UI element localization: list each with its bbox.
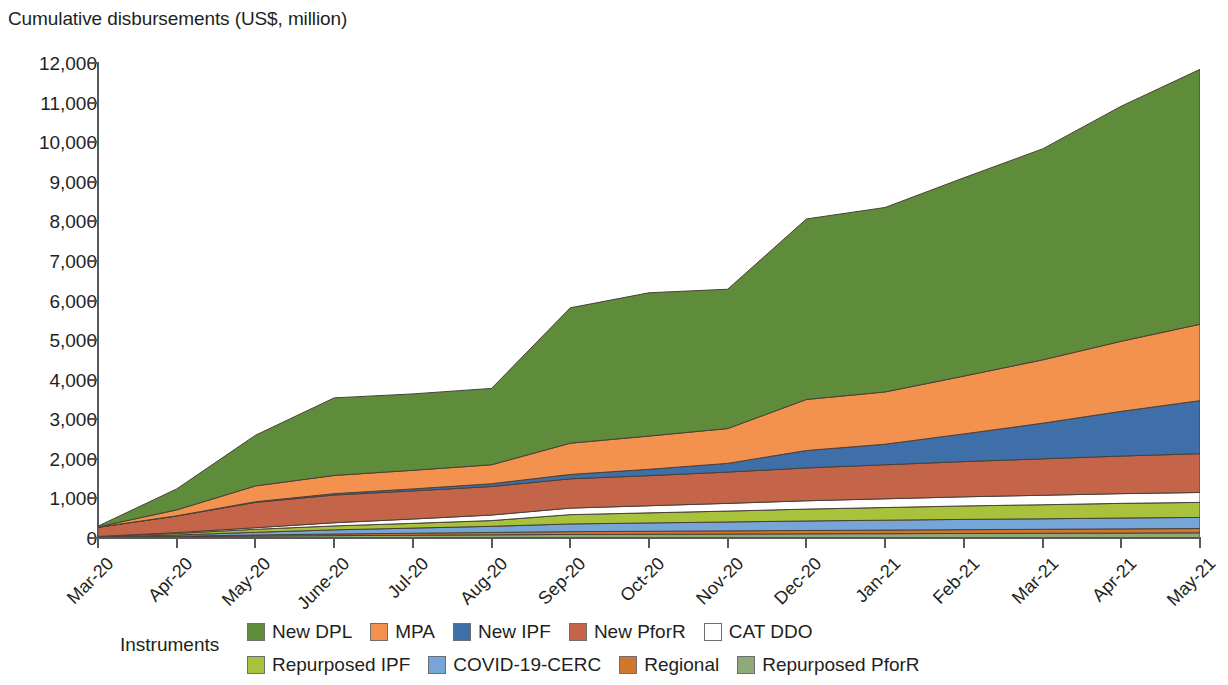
legend-item-label: New PforR [594,622,686,641]
legend-swatch-icon [619,656,637,674]
legend-swatch-icon [428,656,446,674]
x-tick-mark [727,539,729,548]
plot-area [98,63,1200,538]
legend-item[interactable]: COVID-19-CERC [428,655,601,674]
legend-item-label: Regional [644,655,719,674]
legend-items: New DPLMPANew IPFNew PforRCAT DDORepurpo… [247,615,938,681]
x-tick-mark [412,539,414,548]
x-tick-mark [1199,539,1201,548]
x-tick-mark [884,539,886,548]
x-tick-mark [333,539,335,548]
legend-item[interactable]: New PforR [569,622,686,641]
legend-item-label: CAT DDO [729,622,813,641]
legend-swatch-icon [370,623,388,641]
y-tick-label: 2,000 [11,450,97,469]
y-tick-label: 1,000 [11,489,97,508]
y-tick-label: 11,000 [11,94,97,113]
legend-item-label: COVID-19-CERC [453,655,601,674]
legend-item[interactable]: MPA [370,622,435,641]
y-tick-label: 12,000 [11,54,97,73]
x-tick-mark [963,539,965,548]
x-tick-mark [491,539,493,548]
y-tick-label: 7,000 [11,252,97,271]
x-tick-mark [176,539,178,548]
legend-row: Repurposed IPFCOVID-19-CERCRegionalRepur… [247,648,938,681]
legend-item-label: New DPL [272,622,352,641]
y-tick-label: 6,000 [11,292,97,311]
legend-item-label: Repurposed PforR [762,655,919,674]
x-tick-mark [1042,539,1044,548]
legend-swatch-icon [737,656,755,674]
x-tick-mark [805,539,807,548]
x-tick-mark [648,539,650,548]
legend-item-label: Repurposed IPF [272,655,410,674]
legend: Instruments New DPLMPANew IPFNew PforRCA… [120,615,1220,681]
y-tick-label: 3,000 [11,410,97,429]
y-tick-label: 8,000 [11,212,97,231]
legend-item[interactable]: New DPL [247,622,352,641]
x-tick-mark [1120,539,1122,548]
legend-item[interactable]: New IPF [453,622,551,641]
legend-item[interactable]: Repurposed IPF [247,655,410,674]
stacked-area-svg [98,63,1200,538]
legend-title: Instruments [120,635,219,654]
legend-item-label: MPA [395,622,435,641]
legend-swatch-icon [247,623,265,641]
y-tick-label: 10,000 [11,133,97,152]
y-tick-label: 5,000 [11,331,97,350]
legend-swatch-icon [247,656,265,674]
legend-swatch-icon [569,623,587,641]
legend-swatch-icon [453,623,471,641]
legend-item-label: New IPF [478,622,551,641]
x-tick-mark [254,539,256,548]
x-tick-mark [97,539,99,548]
legend-item[interactable]: Repurposed PforR [737,655,919,674]
legend-item[interactable]: Regional [619,655,719,674]
legend-row: New DPLMPANew IPFNew PforRCAT DDO [247,615,938,648]
y-tick-label: 9,000 [11,173,97,192]
y-tick-label: 4,000 [11,371,97,390]
legend-item[interactable]: CAT DDO [704,622,813,641]
y-tick-label: 0 [11,529,97,548]
x-tick-mark [569,539,571,548]
cumulative-disbursements-chart: Cumulative disbursements (US$, million) … [0,0,1228,685]
legend-swatch-icon [704,623,722,641]
